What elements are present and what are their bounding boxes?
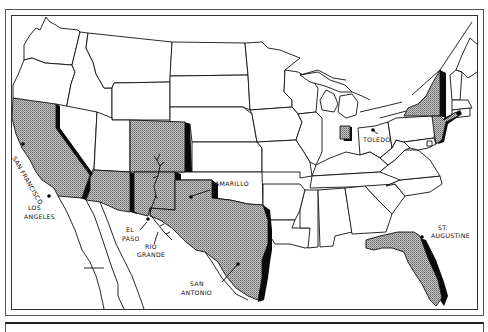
baja-california-outline — [58, 196, 104, 309]
state-utah — [94, 112, 130, 172]
state-colorado — [130, 120, 185, 172]
city-dot-st-augustine — [420, 235, 424, 239]
label-el-paso-1: EL — [126, 226, 134, 233]
label-amarillo: AMARILLO — [215, 180, 249, 187]
state-wyoming — [112, 82, 170, 120]
state-north-dakota — [170, 42, 248, 76]
label-st-augustine-2: AUGUSTINE — [431, 232, 470, 239]
label-san-antonio-1: SAN — [190, 280, 204, 287]
label-rio-grande-1: RIO — [145, 243, 157, 250]
label-el-paso-2: PASO — [122, 235, 140, 242]
state-michigan-lower — [338, 94, 358, 118]
new-york-shadow — [440, 70, 446, 118]
label-st-augustine-1: ST. — [438, 224, 448, 231]
state-kansas — [192, 142, 262, 172]
label-los-angeles-2: ANGELES — [24, 213, 55, 220]
state-new-york — [404, 70, 440, 116]
state-south-dakota — [170, 75, 250, 110]
state-indiana-region — [340, 126, 350, 139]
leader-el-paso — [140, 222, 147, 230]
us-map: SAN FRANCISCO LOS ANGELES EL PASO RIO GR… — [0, 0, 488, 332]
state-vermont-nh — [450, 70, 462, 100]
city-dot-san-francisco — [21, 142, 25, 146]
label-san-antonio-2: ANTONIO — [181, 289, 212, 296]
mexico-outline-1 — [86, 200, 124, 309]
label-rio-grande-2: GRANDE — [137, 251, 165, 258]
state-florida — [366, 232, 442, 306]
city-dot-el-paso — [146, 217, 150, 221]
city-dot-los-angeles — [47, 194, 51, 198]
state-montana — [86, 33, 172, 88]
label-los-angeles-1: LOS — [28, 204, 41, 211]
state-arizona — [86, 170, 130, 212]
state-iowa — [250, 107, 302, 142]
label-toledo: TOLEDO — [362, 136, 390, 143]
delaware-marker — [427, 141, 432, 146]
